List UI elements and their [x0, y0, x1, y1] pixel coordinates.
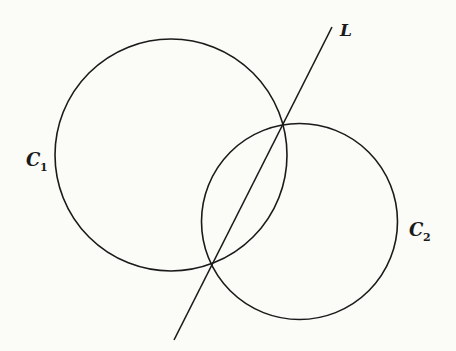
label-l: L: [339, 20, 352, 40]
label-c1-main: C: [26, 149, 41, 170]
diagram-canvas: L C 1 C 2: [0, 0, 456, 351]
circle-c2: [202, 124, 398, 320]
label-c2: C 2: [409, 219, 431, 244]
label-c2-main: C: [409, 219, 424, 240]
label-c2-subscript: 2: [423, 231, 431, 244]
label-c1-subscript: 1: [40, 161, 48, 174]
circle-c1: [55, 39, 287, 271]
label-c1: C 1: [26, 149, 48, 174]
